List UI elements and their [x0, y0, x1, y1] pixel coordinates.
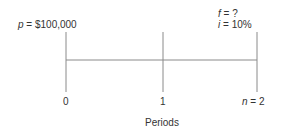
- interest-rate-label: i = 10%: [218, 19, 252, 31]
- present-value-label: p = $100,000: [18, 19, 77, 31]
- tick-label-n: n = 2: [242, 96, 265, 108]
- tick-label-0: 0: [63, 96, 69, 108]
- tick-label-1: 1: [160, 96, 166, 108]
- axis-label: Periods: [145, 117, 179, 129]
